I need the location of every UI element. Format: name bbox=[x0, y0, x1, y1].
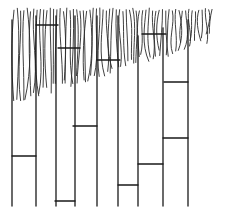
strand-line bbox=[205, 9, 207, 44]
strand-line bbox=[171, 11, 173, 54]
strand-line bbox=[39, 9, 41, 93]
strand-line bbox=[110, 8, 113, 73]
strand-line bbox=[50, 8, 51, 93]
strand-line bbox=[157, 10, 160, 50]
strand-line bbox=[60, 9, 63, 84]
strand-line bbox=[197, 10, 201, 41]
strand-line bbox=[43, 10, 44, 87]
strand-line bbox=[194, 12, 195, 41]
strand-line bbox=[148, 8, 150, 57]
strand-line bbox=[184, 11, 187, 49]
strand-line bbox=[98, 8, 100, 76]
strand-line bbox=[136, 11, 137, 63]
line-art-diagram bbox=[0, 0, 225, 212]
strand-line bbox=[141, 11, 143, 55]
strand-line bbox=[175, 9, 176, 51]
strand-line bbox=[23, 11, 24, 100]
wavy-strands bbox=[12, 8, 212, 101]
strand-line bbox=[101, 10, 104, 76]
horizontal-rungs bbox=[12, 25, 188, 201]
strand-line bbox=[160, 10, 163, 56]
strand-line bbox=[19, 11, 21, 101]
strand-line bbox=[123, 12, 126, 66]
strand-line bbox=[65, 8, 67, 83]
strand-line bbox=[126, 10, 128, 61]
strand-line bbox=[17, 8, 19, 99]
strand-line bbox=[133, 8, 135, 63]
vertical-stems bbox=[12, 16, 188, 206]
strand-line bbox=[119, 10, 122, 67]
strand-line bbox=[45, 11, 47, 88]
strand-line bbox=[130, 10, 132, 59]
strand-line bbox=[201, 10, 202, 38]
